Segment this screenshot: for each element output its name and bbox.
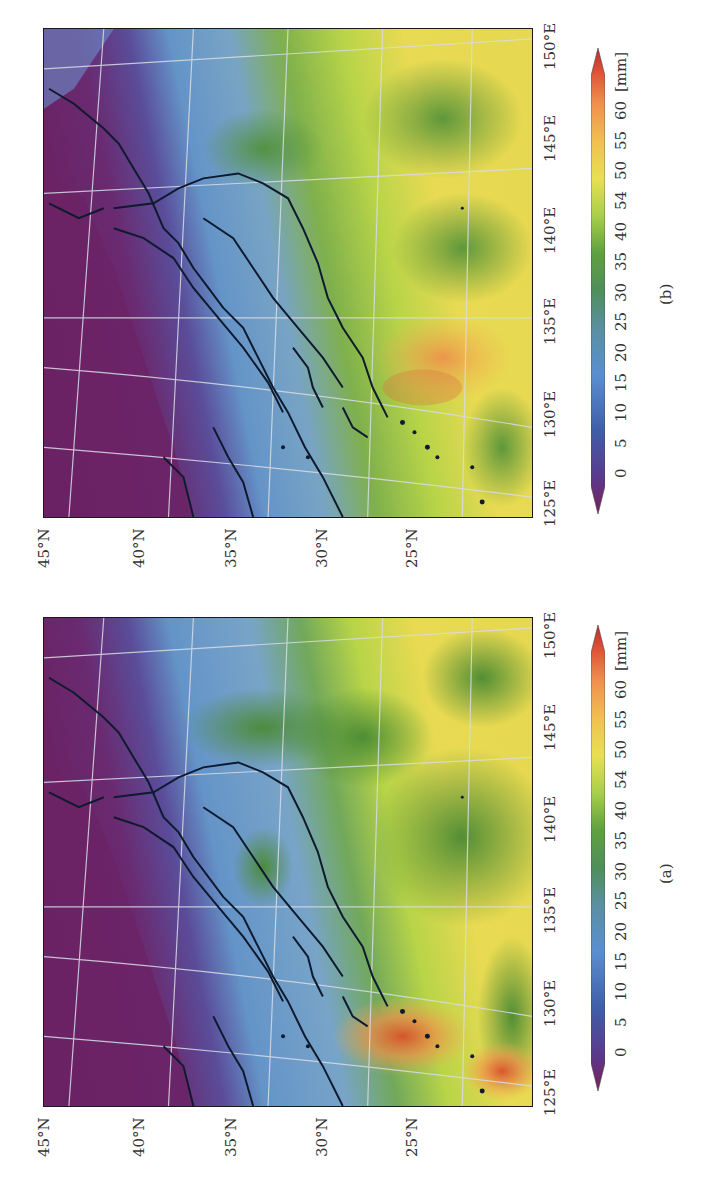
colorbar-tick-25: 25 bbox=[612, 312, 630, 331]
lon-label-130e: 130°E bbox=[541, 980, 559, 1027]
colorbar-gradient-b bbox=[591, 48, 605, 514]
map-panel-b: 45°N 40°N 35°N 30°N 25°N 125°E 130°E 135… bbox=[0, 0, 703, 590]
colorbar-tick-45: 54 bbox=[612, 770, 630, 789]
lon-label-140e: 140°E bbox=[541, 796, 559, 843]
precipitable-water-map-a bbox=[44, 618, 532, 1106]
lat-label-25n: 25°N bbox=[403, 528, 421, 568]
lon-label-140e: 140°E bbox=[541, 207, 559, 254]
colorbar-tick-15: 15 bbox=[612, 373, 630, 392]
lat-label-35n: 35°N bbox=[222, 528, 240, 568]
colorbar-tick-30: 30 bbox=[612, 862, 630, 881]
colorbar-tick-5: 5 bbox=[612, 438, 630, 448]
colorbar-tick-10: 10 bbox=[612, 982, 630, 1001]
panel-caption-a: (a) bbox=[657, 863, 675, 884]
map-panel-a: 45°N 40°N 35°N 30°N 25°N 125°E 130°E 135… bbox=[0, 589, 703, 1179]
colorbar-tick-55: 55 bbox=[612, 131, 630, 150]
colorbar-tick-55: 55 bbox=[612, 710, 630, 729]
lat-label-25n: 25°N bbox=[403, 1117, 421, 1157]
colorbar-tick-40: 40 bbox=[612, 222, 630, 241]
precipitable-water-map-b bbox=[44, 29, 532, 517]
lon-label-125e: 125°E bbox=[541, 1069, 559, 1116]
lon-label-150e: 150°E bbox=[541, 23, 559, 70]
lon-label-130e: 130°E bbox=[541, 391, 559, 438]
lon-label-150e: 150°E bbox=[541, 612, 559, 659]
colorbar-tick-20: 20 bbox=[612, 922, 630, 941]
colorbar-gradient-a bbox=[591, 625, 605, 1091]
colorbar-tick-0: 0 bbox=[612, 468, 630, 478]
colorbar-b bbox=[591, 48, 605, 514]
panel-caption-b: (b) bbox=[657, 284, 675, 305]
colorbar-tick-30: 30 bbox=[612, 283, 630, 302]
colorbar-tick-50: 50 bbox=[612, 161, 630, 180]
lon-label-145e: 145°E bbox=[541, 704, 559, 751]
colorbar-tick-10: 10 bbox=[612, 403, 630, 422]
lat-label-35n: 35°N bbox=[222, 1117, 240, 1157]
colorbar-unit: [mm] bbox=[612, 52, 630, 92]
colorbar-tick-35: 35 bbox=[612, 831, 630, 850]
map-plot-area-a bbox=[43, 617, 533, 1107]
colorbar-tick-5: 5 bbox=[612, 1017, 630, 1027]
lat-label-45n: 45°N bbox=[35, 528, 53, 568]
colorbar-tick-20: 20 bbox=[612, 343, 630, 362]
lon-label-125e: 125°E bbox=[541, 480, 559, 527]
colorbar-tick-60: 60 bbox=[612, 101, 630, 120]
colorbar-tick-50: 50 bbox=[612, 740, 630, 759]
lat-label-30n: 30°N bbox=[313, 1117, 331, 1157]
colorbar-tick-25: 25 bbox=[612, 891, 630, 910]
colorbar-tick-15: 15 bbox=[612, 952, 630, 971]
lon-label-135e: 135°E bbox=[541, 298, 559, 345]
colorbar-tick-45: 54 bbox=[612, 191, 630, 210]
colorbar-tick-35: 35 bbox=[612, 252, 630, 271]
map-plot-area-b bbox=[43, 28, 533, 518]
lon-label-145e: 145°E bbox=[541, 115, 559, 162]
lat-label-40n: 40°N bbox=[130, 1117, 148, 1157]
colorbar-tick-0: 0 bbox=[612, 1047, 630, 1057]
colorbar-tick-60: 60 bbox=[612, 680, 630, 699]
lat-label-45n: 45°N bbox=[35, 1117, 53, 1157]
lon-label-135e: 135°E bbox=[541, 887, 559, 934]
lat-label-30n: 30°N bbox=[313, 528, 331, 568]
colorbar-unit: [mm] bbox=[612, 631, 630, 671]
lat-label-40n: 40°N bbox=[130, 528, 148, 568]
colorbar-tick-40: 40 bbox=[612, 801, 630, 820]
colorbar-a bbox=[591, 625, 605, 1091]
